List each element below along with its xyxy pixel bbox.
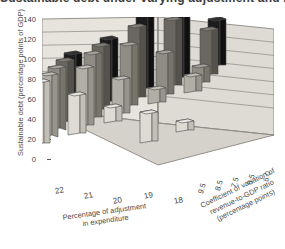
y-tick-label: 120: [23, 35, 36, 44]
x-tick-label: 18: [173, 195, 184, 206]
y-tick-label: 140: [23, 15, 36, 24]
y-axis-ticks: 140 120 100 80 60 40 20 0: [10, 0, 36, 249]
plot-area: [42, 17, 274, 179]
y-tick-label: 0: [32, 155, 36, 164]
y-tick-label: 20: [28, 135, 36, 144]
x-tick-label: 22: [54, 185, 65, 196]
chart-3d-bar: Sustainable debt under varying adjustmen…: [0, 0, 285, 249]
chart-title-clipped: Sustainable debt under varying adjustmen…: [0, 0, 285, 5]
y-tick-label: 100: [23, 55, 36, 64]
y-tick-label: 40: [28, 115, 36, 124]
z-tick-label: 9.5: [196, 182, 208, 195]
x-tick-label: 21: [83, 190, 94, 201]
y-tick-label: 80: [28, 75, 36, 84]
bars-layer: [42, 17, 274, 179]
chart-title-text: Sustainable debt under varying adjustmen…: [0, 0, 285, 5]
x-axis-title: Percentage of adjustment in expenditure: [44, 199, 165, 234]
y-tick-label: 60: [28, 95, 36, 104]
